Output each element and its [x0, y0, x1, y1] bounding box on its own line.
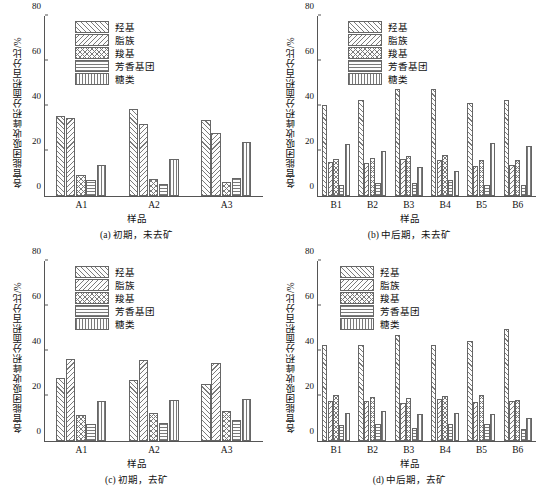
bar	[431, 89, 436, 196]
legend-label: 脂族	[115, 278, 135, 292]
bar	[242, 399, 251, 441]
bar	[333, 159, 338, 196]
bar	[322, 105, 327, 196]
bar	[406, 398, 411, 441]
bar	[232, 178, 241, 196]
legend-label: 羟基	[380, 265, 400, 279]
y-axis-label-c: 各官能团吸收峰积分面积百分比/%	[10, 263, 26, 453]
y-tick-mark	[318, 305, 321, 306]
bar	[375, 183, 380, 197]
plot-area-b: 羟基脂族羧基芳香基团糖类 B1B2B3B4B5B6 020406080	[317, 16, 536, 197]
bar	[66, 359, 75, 441]
legend-item-3: 羧基	[340, 291, 420, 304]
legend-swatch-icon	[348, 47, 382, 59]
x-tick-label: B2	[367, 200, 378, 210]
bar	[66, 118, 75, 196]
bar	[473, 166, 478, 196]
y-tick-mark	[318, 105, 321, 106]
bar	[86, 424, 95, 441]
legend-item-4: 芳香基团	[75, 304, 155, 317]
bar	[375, 424, 380, 441]
bar	[129, 109, 138, 196]
y-tick-mark	[318, 395, 321, 396]
legend-label: 脂族	[388, 33, 408, 47]
y-tick-label: 80	[32, 246, 45, 256]
bar	[431, 345, 436, 441]
legend-item-4: 芳香基团	[75, 59, 155, 72]
legend-label: 糖类	[115, 317, 135, 331]
bar-group: B4	[427, 16, 463, 196]
bar	[76, 175, 85, 196]
y-tick-label: 40	[32, 91, 45, 101]
legend-swatch-icon	[340, 292, 374, 304]
y-tick-mark	[45, 60, 48, 61]
legend-swatch-icon	[348, 73, 382, 85]
bar	[211, 133, 220, 196]
bar	[97, 165, 106, 197]
legend-label: 糖类	[388, 72, 408, 86]
legend-b: 羟基脂族羧基芳香基团糖类	[348, 20, 428, 85]
legend-label: 芳香基团	[115, 59, 155, 73]
bar	[515, 160, 520, 196]
bar	[76, 415, 85, 441]
bar	[222, 411, 231, 441]
panel-caption-c: (c) 初期，去矿	[105, 472, 168, 486]
x-tick-label: A2	[148, 200, 160, 210]
x-tick-label: A3	[221, 445, 233, 455]
bar	[328, 162, 333, 196]
y-tick-label: 0	[37, 181, 46, 191]
legend-item-2: 脂族	[340, 278, 420, 291]
y-tick-mark	[45, 105, 48, 106]
y-tick-mark	[45, 395, 48, 396]
legend-swatch-icon	[75, 305, 109, 317]
x-tick-label: A3	[221, 200, 233, 210]
x-axis-title-c: 样品	[127, 456, 147, 470]
y-tick-mark	[318, 350, 321, 351]
legend-item-3: 羧基	[75, 46, 155, 59]
bar	[345, 413, 350, 441]
bar	[442, 396, 447, 441]
legend-swatch-icon	[340, 305, 374, 317]
bar	[159, 184, 168, 196]
y-tick-mark	[318, 15, 321, 16]
bar	[454, 171, 459, 196]
bar	[222, 182, 231, 196]
legend-swatch-icon	[348, 21, 382, 33]
legend-swatch-icon	[75, 292, 109, 304]
legend-item-4: 芳香基团	[348, 59, 428, 72]
y-tick-label: 80	[32, 1, 45, 11]
plot-area-c: 羟基脂族羧基芳香基团糖类 A1A2A3 020406080	[44, 261, 263, 442]
legend-label: 羟基	[115, 20, 135, 34]
bar	[479, 160, 484, 196]
y-tick-label: 80	[305, 1, 318, 11]
bar	[526, 146, 531, 196]
bar	[473, 402, 478, 441]
legend-swatch-icon	[75, 266, 109, 278]
legend-swatch-icon	[75, 21, 109, 33]
bar	[232, 420, 241, 441]
panel-a: 各官能团吸收峰积分面积百分比/% 羟基脂族羧基芳香基团糖类 A1A2A3 020…	[0, 0, 273, 245]
bar	[381, 151, 386, 196]
x-tick-label: B6	[512, 200, 523, 210]
x-tick-label: B1	[331, 200, 342, 210]
bar-group: B6	[500, 16, 536, 196]
bar	[467, 341, 472, 441]
bar	[86, 180, 95, 196]
bar	[467, 103, 472, 196]
legend-item-5: 糖类	[75, 72, 155, 85]
panel-c: 各官能团吸收峰积分面积百分比/% 羟基脂族羧基芳香基团糖类 A1A2A3 020…	[0, 245, 273, 490]
legend-item-1: 羟基	[75, 20, 155, 33]
bar-group: B5	[463, 261, 499, 441]
x-tick-label: B5	[476, 445, 487, 455]
bar	[395, 335, 400, 441]
bar	[169, 400, 178, 441]
x-axis-title-d: 样品	[400, 456, 420, 470]
legend-swatch-icon	[75, 47, 109, 59]
legend-label: 羟基	[388, 20, 408, 34]
legend-label: 羧基	[388, 46, 408, 60]
legend-item-5: 糖类	[75, 317, 155, 330]
bar	[242, 142, 251, 196]
legend-label: 羧基	[380, 291, 400, 305]
bar	[448, 424, 453, 441]
legend-item-3: 羧基	[348, 46, 428, 59]
